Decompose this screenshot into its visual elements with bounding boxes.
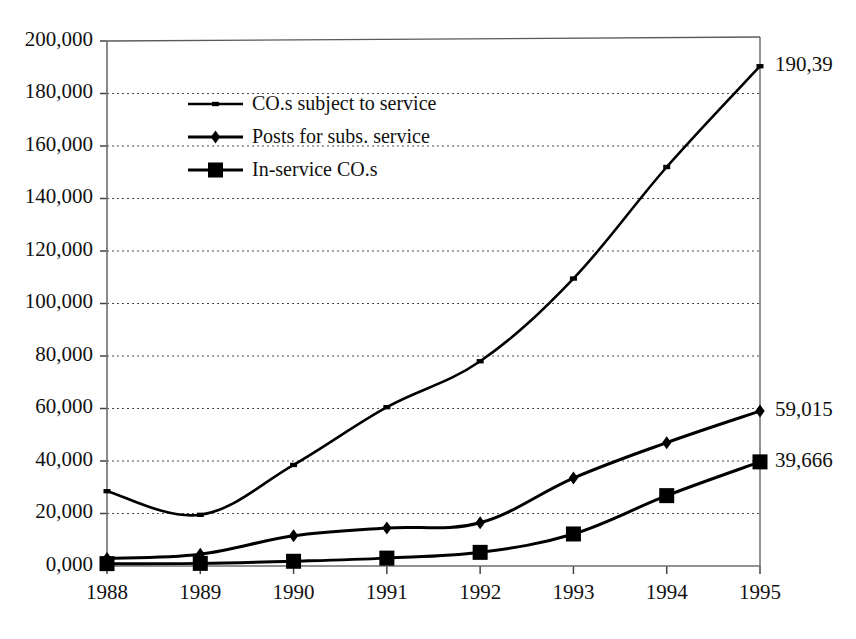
data-point-marker bbox=[659, 488, 674, 503]
x-axis-tick-label: 1993 bbox=[552, 580, 594, 604]
line-chart-figure: 0,00020,00040,00060,00080,000100,000120,… bbox=[0, 0, 856, 639]
series-end-value-label: 59,015 bbox=[775, 397, 833, 421]
data-point-marker bbox=[379, 551, 394, 566]
data-point-marker bbox=[197, 513, 204, 517]
data-point-marker bbox=[570, 276, 577, 280]
data-point-marker bbox=[663, 165, 670, 169]
legend-label: Posts for subs. service bbox=[252, 125, 430, 147]
y-axis-tick-label: 40,000 bbox=[35, 447, 93, 471]
data-point-marker bbox=[473, 545, 488, 560]
data-point-marker bbox=[104, 489, 111, 493]
data-point-marker bbox=[100, 556, 115, 571]
x-axis-tick-label: 1988 bbox=[86, 580, 128, 604]
y-axis-tick-label: 120,000 bbox=[25, 237, 93, 261]
x-axis-tick-label: 1989 bbox=[179, 580, 221, 604]
y-axis-tick-label: 60,000 bbox=[35, 394, 93, 418]
y-axis-tick-label: 140,000 bbox=[25, 184, 93, 208]
x-axis-tick-label: 1995 bbox=[739, 580, 781, 604]
y-axis-tick-label: 200,000 bbox=[25, 27, 93, 51]
x-axis-tick-label: 1992 bbox=[459, 580, 501, 604]
chart-svg: 0,00020,00040,00060,00080,000100,000120,… bbox=[0, 0, 856, 639]
legend-marker-icon bbox=[212, 102, 219, 106]
data-point-marker bbox=[477, 359, 484, 363]
y-axis-tick-label: 0,000 bbox=[46, 552, 93, 576]
y-axis-tick-label: 160,000 bbox=[25, 132, 93, 156]
y-axis-tick-label: 180,000 bbox=[25, 79, 93, 103]
data-point-marker bbox=[193, 556, 208, 571]
series-end-value-label: 39,666 bbox=[775, 448, 833, 472]
y-axis-tick-label: 80,000 bbox=[35, 342, 93, 366]
data-point-marker bbox=[383, 405, 390, 409]
data-point-marker bbox=[566, 526, 581, 541]
y-axis-tick-label: 20,000 bbox=[35, 499, 93, 523]
legend-label: CO.s subject to service bbox=[252, 92, 437, 115]
series-end-value-label: 190,39 bbox=[775, 52, 833, 76]
x-axis-tick-label: 1991 bbox=[366, 580, 408, 604]
data-point-marker bbox=[753, 454, 768, 469]
x-axis-tick-label: 1990 bbox=[273, 580, 315, 604]
x-axis-tick-label: 1994 bbox=[646, 580, 689, 604]
data-point-marker bbox=[290, 463, 297, 467]
data-point-marker bbox=[286, 554, 301, 569]
legend-marker-icon bbox=[208, 163, 223, 178]
data-point-marker bbox=[757, 64, 764, 68]
y-axis-tick-label: 100,000 bbox=[25, 289, 93, 313]
legend-label: In-service CO.s bbox=[252, 158, 378, 180]
